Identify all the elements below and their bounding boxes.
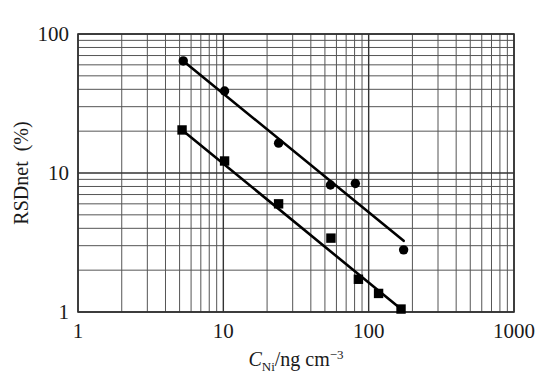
svg-text:100: 100 xyxy=(38,22,70,46)
svg-text:10: 10 xyxy=(48,161,69,185)
svg-text:10: 10 xyxy=(213,319,234,343)
svg-text:100: 100 xyxy=(353,319,385,343)
svg-text:1: 1 xyxy=(59,300,70,324)
svg-text:RSDnet (%): RSDnet (%) xyxy=(10,121,33,224)
y-axis-title: RSDnet (%) xyxy=(10,121,33,224)
chart-figure: 1101001000 110100 CNi/ng cm−3 RSDnet (%) xyxy=(0,0,556,388)
figure-background xyxy=(0,0,556,388)
svg-text:1: 1 xyxy=(73,319,84,343)
log-log-plot: 1101001000 110100 CNi/ng cm−3 RSDnet (%) xyxy=(0,0,556,388)
svg-text:1000: 1000 xyxy=(493,319,535,343)
